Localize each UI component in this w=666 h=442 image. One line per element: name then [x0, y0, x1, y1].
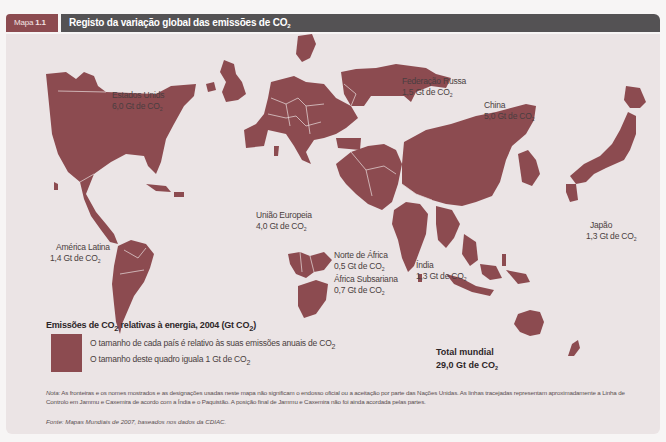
- map-title: Registo da variação global das emissões …: [61, 14, 660, 32]
- map-source: Fonte: Mapas Mundiais de 2007, baseados …: [46, 418, 226, 425]
- label-latin-america: América Latina 1,4 Gt de CO2: [50, 242, 110, 264]
- new-zealand-shape: [568, 340, 580, 356]
- cartogram-map: [6, 34, 660, 434]
- korea-shape: [518, 150, 540, 186]
- label-china: China 5,0 Gt de CO2: [484, 100, 534, 122]
- label-united-states: Estados Unids 6,0 Gt de CO2: [112, 90, 164, 112]
- label-russia: Federação Russa 1,5 Gt de CO2: [402, 76, 466, 98]
- southeast-asia-shape: [436, 206, 530, 296]
- map-panel: Estados Unids 6,0 Gt de CO2 Federação Ru…: [6, 34, 660, 434]
- scandinavia-shape: [296, 34, 316, 62]
- label-north-africa: Norte de África 0,5 Gt de CO2: [334, 250, 388, 272]
- world-total: Total mundial 29,0 Gt de CO2: [436, 346, 498, 372]
- uk-ireland-shape: [206, 60, 246, 102]
- middle-east-shape: [336, 144, 402, 210]
- map-header: Mapa 1.1 Registo da variação global das …: [6, 14, 660, 32]
- legend-title: Emissões de CO2 relativas à energia, 200…: [46, 320, 256, 333]
- map-tab-prefix: Mapa: [14, 18, 33, 27]
- legend-line-size: O tamanho de cada país é relativo às sua…: [90, 338, 335, 351]
- japan-shape: [566, 86, 646, 202]
- label-sub-saharan-africa: África Subsariana 0,7 Gt de CO2: [334, 274, 398, 296]
- caribbean-islands: [54, 182, 184, 197]
- map-tab-number: 1.1: [35, 18, 46, 27]
- legend-scale-square: [51, 334, 82, 372]
- map-note: Nota: As fronteiras e os nomes mostrados…: [46, 388, 646, 406]
- sub-saharan-africa-shape: [298, 280, 328, 318]
- australia-shape: [514, 310, 544, 336]
- legend-line-scale: O tamanho deste quadro iguala 1 Gt de CO…: [90, 354, 250, 367]
- north-africa-shape: [288, 252, 332, 278]
- map-number-tab: Mapa 1.1: [6, 14, 58, 32]
- label-japan: Japão 1,3 Gt de CO2: [586, 220, 636, 242]
- label-india: Índia 1,3 Gt de CO2: [416, 260, 466, 282]
- label-european-union: União Europeia 4,0 Gt de CO2: [256, 210, 312, 232]
